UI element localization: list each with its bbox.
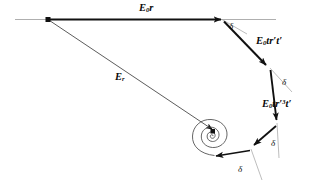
vector-E0tr3t bbox=[271, 70, 277, 120]
vector-Er bbox=[48, 20, 213, 130]
label-delta-2: δ bbox=[282, 78, 286, 87]
delta-ray-4 bbox=[251, 149, 262, 180]
label-E0r: E0r bbox=[139, 3, 153, 14]
label-E0tr3t: E0tr′3t′ bbox=[262, 99, 291, 110]
label-Er: Er bbox=[115, 72, 125, 83]
convergence-spiral bbox=[192, 119, 227, 155]
label-delta-4: δ bbox=[238, 165, 242, 174]
phasor-diagram-canvas bbox=[0, 0, 330, 184]
delta-ray-3 bbox=[277, 123, 279, 158]
vector-E0tr7t bbox=[216, 151, 250, 157]
label-E0trt: E0tr′t′ bbox=[256, 36, 282, 47]
label-delta-1: δ bbox=[229, 22, 233, 31]
spiral-center-dot bbox=[211, 129, 216, 134]
label-delta-3: δ bbox=[271, 139, 275, 148]
